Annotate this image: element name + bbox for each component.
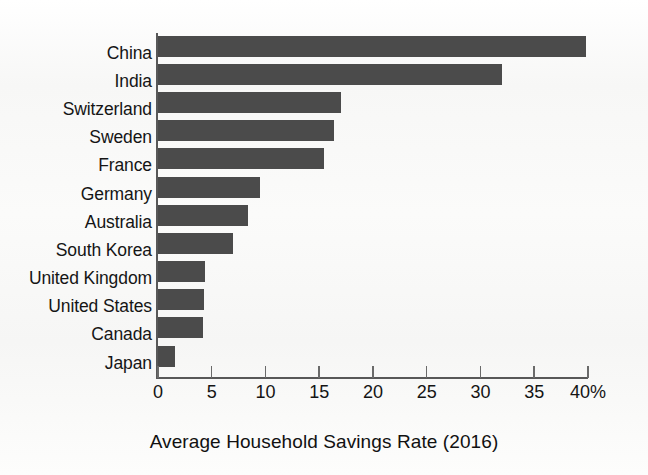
- x-axis-tick: [587, 366, 589, 378]
- x-axis-tick-label-30: 30: [470, 383, 490, 401]
- bar-india: [158, 64, 502, 85]
- category-label-switzerland: Switzerland: [0, 101, 152, 119]
- bar-china: [158, 36, 586, 57]
- bar-switzerland: [158, 92, 341, 113]
- x-axis-tick-label-15: 15: [309, 383, 329, 401]
- category-label-germany: Germany: [0, 186, 152, 204]
- x-axis-tick: [372, 366, 374, 378]
- x-axis-tick-label-25: 25: [417, 383, 437, 401]
- bar-chart: China India Switzerland Sweden France Ge…: [0, 0, 648, 475]
- bar-sweden: [158, 120, 334, 141]
- category-label-canada: Canada: [0, 326, 152, 344]
- category-label-france: France: [0, 157, 152, 175]
- bar-canada: [158, 317, 203, 338]
- x-axis-tick-label-40: 40%: [570, 383, 606, 401]
- category-label-japan: Japan: [0, 355, 152, 373]
- x-axis-tick-label-0: 0: [153, 383, 163, 401]
- category-label-sweden: Sweden: [0, 129, 152, 147]
- x-axis-tick: [318, 366, 320, 378]
- bar-united-states: [158, 289, 204, 310]
- bar-united-kingdom: [158, 261, 205, 282]
- x-axis-tick-label-5: 5: [207, 383, 217, 401]
- bar-japan: [158, 346, 175, 367]
- bar-germany: [158, 177, 260, 198]
- x-axis-tick-label-35: 35: [524, 383, 544, 401]
- category-label-australia: Australia: [0, 214, 152, 232]
- x-axis-tick: [426, 366, 428, 378]
- y-axis-line: [156, 33, 158, 378]
- category-label-india: India: [0, 73, 152, 91]
- category-label-south-korea: South Korea: [0, 242, 152, 260]
- x-axis-tick-label-10: 10: [255, 383, 275, 401]
- x-axis-tick: [265, 366, 267, 378]
- x-axis-tick: [480, 366, 482, 378]
- category-label-united-kingdom: United Kingdom: [0, 270, 152, 288]
- x-axis-tick: [157, 366, 159, 378]
- category-label-united-states: United States: [0, 298, 152, 316]
- bar-france: [158, 148, 324, 169]
- x-axis-tick: [533, 366, 535, 378]
- x-axis-tick: [211, 366, 213, 378]
- x-axis-title: Average Household Savings Rate (2016): [0, 432, 648, 451]
- bar-south-korea: [158, 233, 233, 254]
- bar-australia: [158, 205, 248, 226]
- category-label-china: China: [0, 45, 152, 63]
- x-axis-tick-label-20: 20: [363, 383, 383, 401]
